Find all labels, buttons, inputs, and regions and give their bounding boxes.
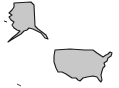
region-contiguous-us [54, 49, 112, 82]
region-hawaii [17, 84, 21, 86]
us-map-svg [0, 0, 119, 88]
region-alaska [4, 2, 48, 42]
